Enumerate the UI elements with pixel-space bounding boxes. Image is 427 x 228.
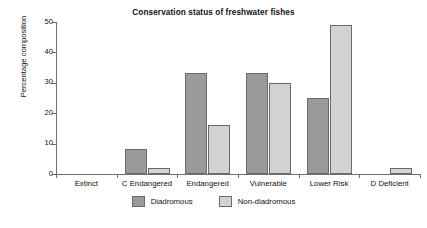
legend-item-non-diadromous[interactable]: Non-diadromous (219, 196, 296, 207)
x-tick-mark (359, 174, 360, 178)
bar-non-diadromous-lower-risk (330, 25, 352, 174)
x-tick-mark (238, 174, 239, 178)
x-category-label-endangered: Endangered (186, 179, 229, 188)
legend-swatch-icon (132, 196, 145, 207)
y-axis-label: Percentage composition (19, 0, 28, 132)
x-tick-mark (299, 174, 300, 178)
plot-area: 01020304050 ExtinctC EndangeredEndangere… (56, 22, 420, 174)
x-category-label-c-endangered: C Endangered (122, 179, 172, 188)
y-tick-label: 0 (49, 169, 53, 178)
legend-label: Diadromous (151, 197, 193, 206)
bar-non-diadromous-c-endangered (148, 168, 170, 174)
bar-non-diadromous-vulnerable (269, 83, 291, 174)
x-tick-mark (177, 174, 178, 178)
y-tick-label: 40 (45, 47, 53, 56)
y-axis-line (56, 22, 57, 174)
legend-swatch-icon (219, 196, 232, 207)
bar-diadromous-c-endangered (125, 149, 147, 174)
x-category-label-vulnerable: Vulnerable (250, 179, 287, 188)
legend-label: Non-diadromous (238, 197, 296, 206)
bar-non-diadromous-endangered (208, 125, 230, 174)
x-category-label-lower-risk: Lower Risk (310, 179, 349, 188)
x-tick-mark (117, 174, 118, 178)
bar-non-diadromous-d-deficient (390, 168, 412, 174)
x-category-label-d-deficient: D Deficient (371, 179, 409, 188)
y-tick-label: 20 (45, 108, 53, 117)
bar-diadromous-endangered (185, 73, 207, 174)
y-tick-label: 10 (45, 138, 53, 147)
legend-item-diadromous[interactable]: Diadromous (132, 196, 193, 207)
x-category-label-extinct: Extinct (75, 179, 98, 188)
y-tick-label: 50 (45, 17, 53, 26)
y-tick-label: 30 (45, 77, 53, 86)
bar-diadromous-vulnerable (246, 73, 268, 174)
x-tick-mark (56, 174, 57, 178)
x-tick-mark (420, 174, 421, 178)
chart-figure: Conservation status of freshwater fishes… (0, 0, 427, 228)
chart-legend: DiadromousNon-diadromous (0, 196, 427, 207)
chart-title: Conservation status of freshwater fishes (0, 8, 427, 17)
bar-diadromous-lower-risk (307, 98, 329, 174)
